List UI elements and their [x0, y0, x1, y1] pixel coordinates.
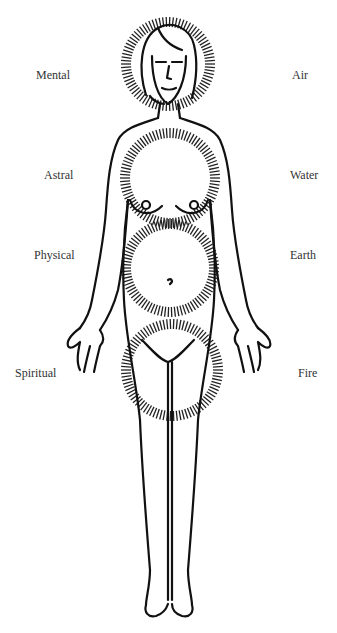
body-figure	[0, 0, 337, 633]
body-outline	[68, 25, 271, 617]
halo-abdomen	[121, 219, 219, 317]
halo-head	[121, 17, 215, 111]
halo-chest	[120, 128, 220, 228]
